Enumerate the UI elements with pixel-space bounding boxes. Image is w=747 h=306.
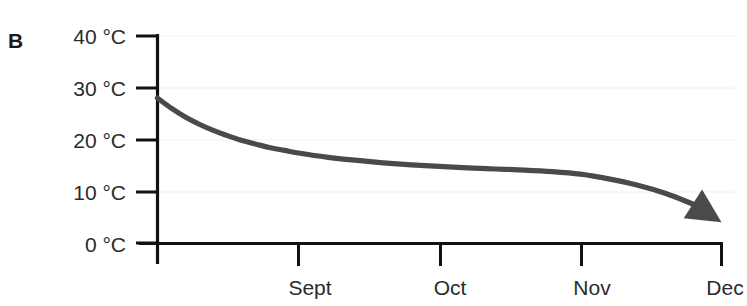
figure-panel-b: B 40 °C 30 °C 20 °C 10 °C 0 °C	[0, 0, 747, 306]
xtick-label-oct: Oct	[434, 276, 467, 299]
end-arrowhead-icon	[684, 190, 722, 223]
x-axis-tick-marks	[299, 243, 722, 266]
ytick-label-10: 10 °C	[73, 181, 126, 204]
ytick-label-20: 20 °C	[73, 129, 126, 152]
y-axis-tick-labels: 40 °C 30 °C 20 °C 10 °C 0 °C	[73, 25, 126, 256]
temperature-curve	[158, 98, 694, 204]
ytick-label-0: 0 °C	[85, 233, 126, 256]
xtick-label-nov: Nov	[573, 276, 611, 299]
ytick-label-30: 30 °C	[73, 77, 126, 100]
panel-label: B	[8, 29, 23, 52]
xtick-label-dec: Dec	[706, 276, 743, 299]
temperature-line-chart: B 40 °C 30 °C 20 °C 10 °C 0 °C	[0, 0, 747, 306]
ytick-label-40: 40 °C	[73, 25, 126, 48]
xtick-label-sept: Sept	[288, 276, 331, 299]
x-axis-tick-labels: Sept Oct Nov Dec	[288, 276, 743, 299]
y-axis-tick-marks	[136, 36, 158, 243]
